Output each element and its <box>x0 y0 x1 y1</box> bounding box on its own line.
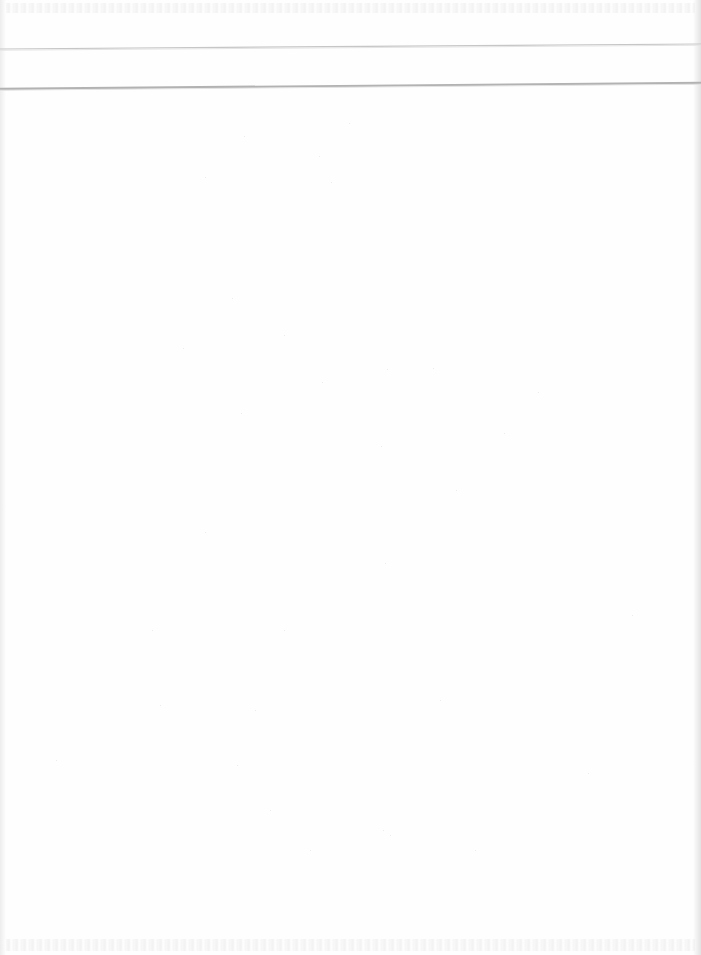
paper-speck <box>433 368 434 369</box>
paper-speck <box>322 382 323 383</box>
paper-speck <box>319 156 320 157</box>
paper-speck <box>440 700 441 701</box>
paper-speck <box>349 123 350 124</box>
lower-rule <box>0 83 701 89</box>
horizontal-rules <box>0 0 701 955</box>
paper-speck <box>387 369 388 370</box>
paper-speck <box>232 298 233 299</box>
paper-speck <box>205 177 206 178</box>
paper-speck <box>241 413 242 414</box>
paper-speck <box>383 830 384 831</box>
paper-speck <box>456 490 457 491</box>
paper-speck <box>504 433 505 434</box>
paper-speck <box>390 835 391 836</box>
paper-speck <box>152 630 153 631</box>
paper-speck <box>237 765 238 766</box>
paper-speck <box>475 850 476 851</box>
paper-speck <box>160 705 161 706</box>
paper-speck <box>270 810 271 811</box>
paper-speck <box>632 615 633 616</box>
paper-speck <box>310 850 311 851</box>
scanned-page <box>0 0 701 955</box>
paper-speck <box>284 335 285 336</box>
paper-speck <box>381 446 382 447</box>
paper-speck <box>331 182 332 183</box>
paper-speck <box>588 773 589 774</box>
paper-speck <box>56 760 57 761</box>
paper-speck <box>183 348 184 349</box>
paper-speck <box>244 136 245 137</box>
upper-rule <box>0 44 701 49</box>
paper-speck <box>255 710 256 711</box>
paper-speck <box>205 532 206 533</box>
paper-speck <box>538 392 539 393</box>
paper-speck <box>284 630 285 631</box>
paper-speck <box>385 563 386 564</box>
